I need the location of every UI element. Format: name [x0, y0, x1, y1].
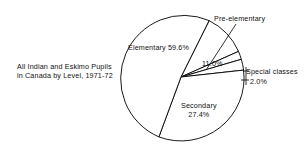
slice-value-secondary: 27.4% [181, 110, 217, 119]
caption-line-1: All Indian and Eskimo Pupils [17, 62, 113, 71]
slice-value-special-classes: 2.0% [250, 77, 267, 86]
slice-label-secondary: Secondary [181, 101, 217, 110]
slice-label-secondary-group: Secondary 27.4% [181, 101, 217, 120]
pie-chart-figure: All Indian and Eskimo Pupils in Canada b… [0, 0, 307, 148]
slice-label-pre-elementary: Pre-elementary [214, 14, 265, 23]
slice-value-pre-elementary: 11.0% [202, 59, 223, 68]
figure-caption: All Indian and Eskimo Pupils in Canada b… [17, 62, 113, 81]
caption-line-2: in Canada by Level, 1971-72 [17, 71, 113, 80]
slice-label-special-classes: Special classes [246, 67, 298, 76]
slice-label-elementary: Elementary 59.6% [128, 43, 189, 52]
